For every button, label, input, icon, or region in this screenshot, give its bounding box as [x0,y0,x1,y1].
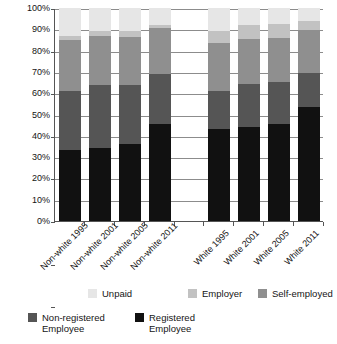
bar-segment-unpaid [119,8,141,31]
bar-segment-registered-employee [89,148,111,221]
y-tick-label: 50% [32,111,50,120]
legend-swatch-icon [88,289,97,298]
legend-item[interactable]: Employer [188,288,242,299]
bar-white-2011[interactable] [298,8,320,221]
bar-segment-registered-employee [238,127,260,221]
bar-segment-unpaid [149,8,171,25]
bar-segment-non-registered-employee [238,84,260,128]
legend-label: Non-registered Employee [42,312,105,334]
y-tick-label: 40% [32,132,50,141]
x-tick-mark [233,222,234,226]
legend-swatch-icon [135,313,144,322]
bar-white-2005[interactable] [268,8,290,221]
y-tick-label: 0% [37,217,50,226]
plot-area [54,9,323,222]
y-tick-label: 10% [32,196,50,205]
bar-segment-non-registered-employee [298,73,320,107]
y-tick-label: 30% [32,153,50,162]
bar-segment-registered-employee [149,124,171,221]
bar-segment-self-employed [238,39,260,84]
bar-white-2001[interactable] [238,8,260,221]
bar-segment-unpaid [268,8,290,24]
bar-segment-unpaid [89,8,111,31]
y-tick-label: 70% [32,68,50,77]
y-tick-label: 90% [32,25,50,34]
y-tick-label: 60% [32,89,50,98]
gridline [55,222,323,223]
bar-non-white-1995[interactable] [59,8,81,221]
bar-segment-registered-employee [268,124,290,221]
bar-segment-non-registered-employee [208,91,230,129]
chart-legend: UnpaidEmployerSelf-employedNon-registere… [0,288,337,338]
legend-swatch-icon [28,313,37,322]
bar-non-white-2001[interactable] [89,8,111,221]
bar-segment-self-employed [89,36,111,85]
bar-segment-self-employed [119,37,141,85]
bar-segment-registered-employee [119,144,141,221]
stacked-bar-chart: 100%90%80%70%60%50%40%30%20%10%0% Non-wh… [0,0,337,344]
bar-segment-unpaid [238,8,260,25]
bar-segment-registered-employee [298,107,320,221]
bar-non-white-2005[interactable] [119,8,141,221]
legend-item[interactable]: Unpaid [88,288,132,299]
bar-segment-employer [298,21,320,31]
bar-white-1995[interactable] [208,8,230,221]
bar-non-white-2011[interactable] [149,8,171,221]
bar-segment-employer [268,24,290,38]
bar-segment-non-registered-employee [149,74,171,124]
legend-item[interactable]: Self-employed [258,288,333,299]
bar-segment-non-registered-employee [89,85,111,148]
legend-swatch-icon [188,289,197,298]
legend-item[interactable]: Non-registered Employee [28,312,105,334]
bar-segment-non-registered-employee [59,91,81,150]
legend-label: Self-employed [272,288,333,299]
legend-label: Unpaid [102,288,132,299]
bar-segment-non-registered-employee [119,85,141,145]
bar-segment-unpaid [208,8,230,31]
bar-segment-non-registered-employee [268,82,290,125]
bar-segment-self-employed [149,28,171,74]
x-tick-mark [203,222,204,226]
bars-layer [55,9,323,221]
x-tick-mark [293,222,294,226]
bar-segment-unpaid [59,8,81,36]
bar-segment-self-employed [59,40,81,91]
bar-segment-unpaid [298,8,320,21]
bar-segment-employer [208,31,230,43]
y-tick-label: 20% [32,174,50,183]
legend-label: Registered Employee [149,312,195,334]
bar-segment-employer [238,25,260,39]
bar-segment-registered-employee [208,129,230,221]
bar-segment-self-employed [268,38,290,82]
legend-label: Employer [202,288,242,299]
legend-swatch-icon [258,289,267,298]
x-tick-mark [323,222,324,226]
x-tick-mark [263,222,264,226]
legend-item[interactable]: Registered Employee [135,312,195,334]
bar-segment-self-employed [208,43,230,91]
y-tick-label: 100% [27,4,50,13]
y-tick-label: 80% [32,47,50,56]
bar-segment-self-employed [298,30,320,73]
bar-segment-registered-employee [59,150,81,221]
